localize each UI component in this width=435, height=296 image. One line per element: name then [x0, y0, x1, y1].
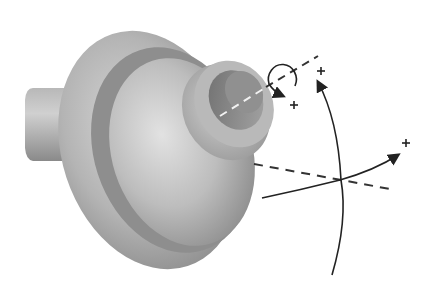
plus-marker-vertical [317, 67, 325, 75]
spin-arrow [268, 65, 296, 96]
plus-marker-horizontal [402, 139, 410, 147]
plus-marker-spin [290, 101, 298, 109]
horizontal-axis [254, 164, 390, 189]
horizontal-rotation-arc [262, 155, 398, 198]
cad-figure [0, 0, 435, 296]
plus-markers [290, 67, 410, 147]
part-diagram [0, 0, 435, 296]
vertical-rotation-arc [318, 82, 343, 275]
